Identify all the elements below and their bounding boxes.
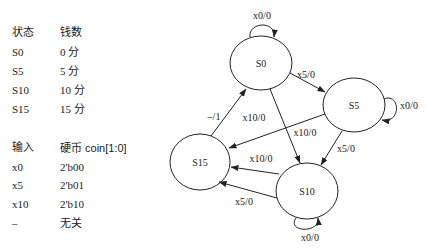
label-s0-s5: x5/0 <box>297 69 315 80</box>
state-diagram: S0 S5 S15 S10 x0/0 x5/0 x10/0 x0/0 x5/0 … <box>0 0 427 248</box>
label-s5-s10: x5/0 <box>337 143 355 154</box>
transition-s0-s0 <box>250 25 274 37</box>
label-s15-s0: –/1 <box>207 111 221 122</box>
label-s10-s15-x10: x10/0 <box>250 153 273 164</box>
state-label-s15: S15 <box>192 157 208 168</box>
state-label-s0: S0 <box>256 58 267 69</box>
state-label-s10: S10 <box>299 186 315 197</box>
state-label-s5: S5 <box>349 100 360 111</box>
transition-s0-s10 <box>270 89 300 163</box>
transition-s10-s15-x10 <box>231 167 279 174</box>
label-s0-s0: x0/0 <box>253 10 271 21</box>
label-s0-s10: x10/0 <box>243 112 266 123</box>
label-s10-s15-x5: x5/0 <box>235 196 253 207</box>
label-s10-s10: x0/0 <box>301 232 319 243</box>
label-s5-s5: x0/0 <box>400 100 418 111</box>
transition-s10-s10 <box>294 218 318 229</box>
label-s5-s15: x10/0 <box>294 127 317 138</box>
